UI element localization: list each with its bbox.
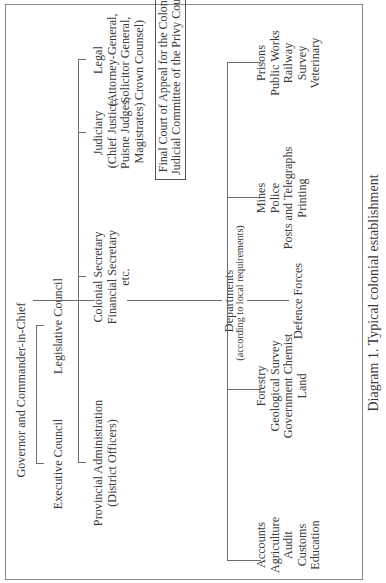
rotated-diagram-canvas: Governor and Commander-in-Chief Executiv…: [0, 0, 386, 583]
secretariat-tick: [78, 276, 86, 277]
administration-trunk: [78, 60, 79, 463]
diagram-caption: Diagram 1. Typical colonial establishmen…: [367, 174, 381, 411]
provincial-tick: [78, 462, 86, 463]
executive-council-tick: [36, 463, 44, 464]
defence-forces-label: Defence Forces: [292, 263, 306, 339]
executive-council-label: Executive Council: [52, 419, 66, 509]
departments-note: (according to local requirements): [233, 225, 247, 361]
dept-group2-list: Forestry Geological Survey Government Ch…: [255, 334, 309, 439]
legal-label: Legal (Attorney-General, Solicitor Gener…: [92, 13, 146, 106]
legislative-council-label: Legislative Council: [52, 278, 66, 374]
governor-label: Governor and Commander-in-Chief: [15, 302, 29, 477]
secretariat-label: Colonial Secretary Financial Secretary e…: [92, 230, 133, 324]
dept-group1-list: Accounts Agriculture Audit Customs Educa…: [255, 517, 323, 573]
defence-connector: [247, 300, 289, 301]
judiciary-tick: [78, 132, 86, 133]
governor-connector: [33, 300, 95, 301]
legislative-council-tick: [36, 325, 44, 326]
dept-group4-list: Prisons Public Works Railway Survey Vete…: [255, 30, 323, 96]
privy-council-box: Final Court of Appeal for the Colonies: …: [155, 0, 186, 180]
legal-tick: [78, 59, 86, 60]
dept-group3-list: Mines Police Posts and Telegraphs Printi…: [255, 147, 309, 250]
judiciary-label: Judiciary (Chief Justice, Puisne Judges,…: [92, 97, 146, 169]
departments-trunk: [227, 63, 228, 561]
provincial-administration-label: Provincial Administration (District Offi…: [92, 400, 119, 526]
council-bracket-bar: [36, 326, 37, 464]
departments-connector: [127, 300, 222, 301]
